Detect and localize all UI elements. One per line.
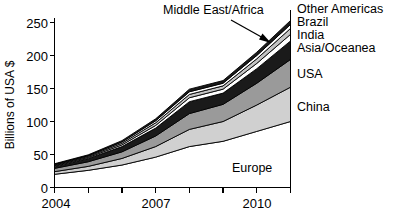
x-tick-labels: 2004 2007 2010 <box>42 196 272 211</box>
stacked-area-chart: 250 200 150 100 50 0 2004 2007 2010 Bill… <box>0 0 393 222</box>
series-label-brazil: Brazil <box>297 15 328 29</box>
annotation-arrow-line <box>231 20 265 39</box>
x-tick-label-2010: 2010 <box>243 196 272 211</box>
chart-root: 250 200 150 100 50 0 2004 2007 2010 Bill… <box>0 0 393 222</box>
series-label-europe: Europe <box>232 161 272 175</box>
x-tick-marks <box>55 188 291 193</box>
series-label-china: China <box>297 100 330 114</box>
y-tick-label-250: 250 <box>26 16 48 31</box>
series-label-india: India <box>297 28 324 42</box>
y-tick-label-150: 150 <box>26 82 48 97</box>
y-tick-label-200: 200 <box>26 49 48 64</box>
middle-east-africa-annotation: Middle East/Africa <box>163 3 271 43</box>
series-label-asia-oceanea: Asia/Oceanea <box>297 41 376 55</box>
annotation-label-middle-east-africa: Middle East/Africa <box>163 3 264 17</box>
y-tick-label-100: 100 <box>26 115 48 130</box>
annotation-arrow-head <box>259 34 271 44</box>
y-tick-marks <box>50 23 55 188</box>
series-label-usa: USA <box>297 67 323 81</box>
y-axis-title: Billions of USA $ <box>3 60 17 149</box>
x-tick-label-2004: 2004 <box>42 196 71 211</box>
y-tick-labels: 250 200 150 100 50 0 <box>26 16 48 196</box>
x-tick-label-2007: 2007 <box>142 196 171 211</box>
series-label-other-americas: Other Americas <box>297 2 383 16</box>
y-tick-label-0: 0 <box>41 181 48 196</box>
y-tick-label-50: 50 <box>34 148 48 163</box>
